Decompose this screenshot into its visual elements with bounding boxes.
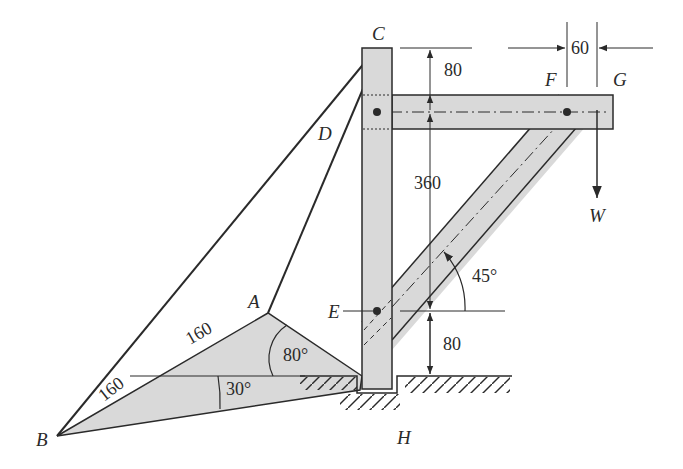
angle-45: 45° <box>472 266 497 286</box>
pin-dot-beam <box>373 108 381 116</box>
vertical-post <box>362 48 392 389</box>
pin-dot-f <box>563 108 571 116</box>
label-g: G <box>613 69 627 90</box>
label-w: W <box>589 205 607 226</box>
label-c: C <box>372 23 385 44</box>
cable-ac <box>268 62 372 313</box>
angle-80: 80° <box>283 345 308 365</box>
pin-dot-e <box>373 307 381 315</box>
dim-80-top: 80 <box>444 60 462 80</box>
dim-60: 60 <box>571 38 589 58</box>
structure-diagram: C D A B E F G H W 80 360 80 60 45° 80° 3… <box>0 0 683 469</box>
label-h: H <box>396 427 412 448</box>
label-b: B <box>36 429 48 450</box>
horizontal-beam <box>390 95 613 129</box>
label-d: D <box>317 123 332 144</box>
label-f: F <box>544 69 557 90</box>
diagonal-brace <box>362 95 613 350</box>
dim-80-bottom: 80 <box>443 334 461 354</box>
label-e: E <box>327 301 340 322</box>
dim-160-ab: 160 <box>182 318 215 349</box>
angle-30: 30° <box>226 379 251 399</box>
label-a: A <box>246 291 260 312</box>
dim-360: 360 <box>414 173 441 193</box>
